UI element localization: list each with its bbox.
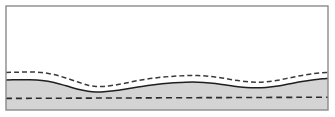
profile-diagram (0, 0, 335, 117)
figure-root (0, 0, 335, 117)
